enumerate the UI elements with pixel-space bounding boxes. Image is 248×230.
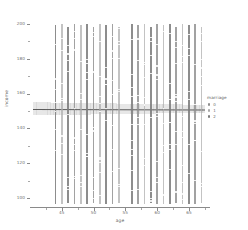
strip-gap bbox=[175, 94, 177, 95]
strip-gap bbox=[93, 71, 95, 72]
strip-gap bbox=[201, 41, 203, 42]
strip-gap bbox=[175, 96, 177, 97]
strip-gap bbox=[55, 150, 57, 151]
strip-gap bbox=[144, 104, 146, 105]
strip-gap bbox=[118, 89, 120, 90]
strip-gap bbox=[169, 169, 171, 170]
strip-gap bbox=[188, 34, 190, 35]
strip-gap bbox=[131, 39, 133, 40]
strip-gap bbox=[175, 144, 177, 145]
strip-gap bbox=[99, 195, 101, 196]
strip-gap bbox=[201, 59, 203, 60]
strip-gap bbox=[150, 41, 152, 42]
strip-gap bbox=[86, 79, 88, 80]
strip-gap bbox=[80, 175, 82, 176]
strip-gap bbox=[99, 157, 101, 158]
strip-gap bbox=[156, 66, 158, 67]
strip-gap bbox=[163, 194, 165, 195]
strip-gap bbox=[86, 153, 88, 154]
strip-gap bbox=[163, 145, 165, 146]
strip-gap bbox=[188, 91, 190, 92]
strip-gap bbox=[137, 124, 139, 125]
strip-gap bbox=[112, 50, 114, 51]
legend-item[interactable]: 2 bbox=[207, 114, 248, 120]
strip-gap bbox=[150, 191, 152, 192]
strip-gap bbox=[194, 180, 196, 181]
strip-gap bbox=[99, 111, 101, 112]
strip-gap bbox=[67, 54, 69, 55]
strip-gap bbox=[67, 186, 69, 187]
strip-gap bbox=[150, 201, 152, 202]
x-axis-spine bbox=[30, 207, 210, 208]
strip-gap bbox=[144, 77, 146, 78]
strip-gap bbox=[194, 123, 196, 124]
scatter-strip bbox=[175, 27, 177, 203]
strip-gap bbox=[55, 102, 57, 103]
strip-gap bbox=[144, 158, 146, 159]
strip-gap bbox=[105, 108, 107, 109]
legend: marriage 012 bbox=[207, 95, 248, 120]
strip-gap bbox=[67, 189, 69, 190]
strip-gap bbox=[150, 55, 152, 56]
strip-gap bbox=[118, 184, 120, 185]
strip-gap bbox=[112, 171, 114, 172]
scatter-strip bbox=[105, 25, 107, 203]
strip-gap bbox=[188, 48, 190, 49]
y-tick-major bbox=[27, 94, 30, 95]
strip-gap bbox=[93, 177, 95, 178]
strip-gap bbox=[131, 96, 133, 97]
strip-gap bbox=[188, 144, 190, 145]
scatter-strip bbox=[169, 24, 171, 204]
y-tick-major bbox=[27, 59, 30, 60]
strip-gap bbox=[144, 124, 146, 125]
x-tick-minor bbox=[46, 208, 47, 210]
strip-gap bbox=[144, 165, 146, 166]
y-tick-label: 100 bbox=[17, 196, 25, 200]
strip-gap bbox=[99, 103, 101, 104]
figure-canvas: 100120140160180200 4550556065 income age… bbox=[0, 0, 248, 230]
strip-gap bbox=[188, 55, 190, 56]
strip-gap bbox=[156, 182, 158, 183]
strip-gap bbox=[194, 121, 196, 122]
strip-gap bbox=[182, 45, 184, 46]
legend-item-label: 2 bbox=[213, 114, 216, 119]
scatter-strip bbox=[163, 25, 165, 203]
scatter-strip bbox=[137, 25, 139, 203]
strip-gap bbox=[182, 116, 184, 117]
strip-gap bbox=[169, 99, 171, 100]
strip-gap bbox=[80, 129, 82, 130]
strip-gap bbox=[137, 60, 139, 61]
strip-gap bbox=[131, 74, 133, 75]
strip-gap bbox=[74, 176, 76, 177]
strip-gap bbox=[182, 56, 184, 57]
strip-gap bbox=[99, 158, 101, 159]
strip-gap bbox=[182, 62, 184, 63]
strip-gap bbox=[201, 183, 203, 184]
strip-gap bbox=[144, 97, 146, 98]
strip-gap bbox=[144, 62, 146, 63]
scatter-strip bbox=[150, 27, 152, 203]
strip-gap bbox=[131, 155, 133, 156]
strip-gap bbox=[93, 36, 95, 37]
scatter-strip bbox=[182, 24, 184, 204]
strip-gap bbox=[99, 96, 101, 97]
x-tick-minor bbox=[141, 208, 142, 210]
strip-gap bbox=[137, 117, 139, 118]
strip-gap bbox=[156, 177, 158, 178]
strip-gap bbox=[118, 186, 120, 187]
legend-item-label: 0 bbox=[213, 102, 216, 107]
strip-gap bbox=[188, 173, 190, 174]
strip-gap bbox=[175, 63, 177, 64]
strip-gap bbox=[67, 45, 69, 46]
scatter-strip bbox=[188, 25, 190, 203]
y-tick-label: 120 bbox=[17, 161, 25, 165]
y-tick-major bbox=[27, 24, 30, 25]
legend-marker-icon bbox=[208, 115, 210, 117]
strip-gap bbox=[182, 182, 184, 183]
strip-gap bbox=[55, 129, 57, 130]
strip-gap bbox=[74, 150, 76, 151]
y-tick-label: 140 bbox=[17, 126, 25, 130]
y-tick-label: 200 bbox=[17, 22, 25, 26]
strip-gap bbox=[67, 60, 69, 61]
strip-gap bbox=[201, 186, 203, 187]
